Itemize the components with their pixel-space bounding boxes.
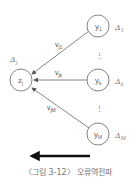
output-node-y1: y1 <box>87 15 109 37</box>
weight-vj1-label: vj1 <box>55 41 63 50</box>
figure-caption: 〈그림 3-12〉 오류역전파 <box>0 166 136 177</box>
backprop-diagram: zj Δj y1 Δ1 yk Δk yM ΔM ⋮ ⋮ vj1 vjk vjM <box>0 0 136 183</box>
edge-y1-zj <box>32 31 89 74</box>
weight-vjk-label: vjk <box>55 69 63 78</box>
weight-vjm-label: vjM <box>47 104 56 113</box>
delta-m-label: ΔM <box>114 131 127 141</box>
hidden-node-zj: zj <box>10 69 32 91</box>
output-node-yk: yk <box>87 69 109 91</box>
delta-1-label: Δ1 <box>114 23 124 33</box>
delta-j-label: Δj <box>9 55 18 66</box>
ellipsis-lower: ⋮ <box>96 105 103 112</box>
edge-ym-zj <box>32 88 89 128</box>
output-node-ym: yM <box>87 123 109 145</box>
ellipsis-upper: ⋮ <box>96 52 103 59</box>
delta-k-label: Δk <box>114 77 124 87</box>
